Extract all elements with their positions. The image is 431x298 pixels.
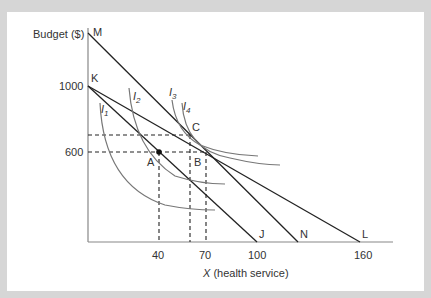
y-tick-1000: 1000	[59, 80, 83, 92]
dashed-guides	[88, 135, 206, 242]
label-C: C	[192, 121, 200, 133]
x-tick-40: 40	[152, 249, 164, 261]
budget-lines	[88, 33, 360, 242]
budget-diagram: Budget ($) 1000 600 40 70 100 160 X (hea…	[0, 0, 431, 298]
x-axis-desc: (health service)	[210, 267, 288, 279]
curve-I2	[129, 88, 225, 184]
label-I2: I2	[133, 90, 141, 105]
x-tick-160: 160	[354, 249, 372, 261]
label-I1: I1	[101, 103, 109, 118]
point-A-marker	[156, 149, 162, 155]
budget-line-KL	[88, 86, 360, 242]
label-L: L	[362, 228, 368, 240]
label-J: J	[259, 228, 265, 240]
x-axis-label: X (health service)	[202, 267, 289, 279]
label-B: B	[194, 156, 201, 168]
label-M: M	[93, 26, 102, 38]
x-tick-100: 100	[248, 249, 266, 261]
budget-line-KJ	[88, 86, 257, 242]
label-A: A	[147, 156, 155, 168]
label-I4: I4	[183, 100, 191, 115]
label-N: N	[300, 228, 308, 240]
y-axis-label: Budget ($)	[33, 28, 84, 40]
label-K: K	[91, 72, 99, 84]
x-tick-70: 70	[199, 249, 211, 261]
label-I3: I3	[169, 86, 177, 101]
y-tick-600: 600	[65, 146, 83, 158]
